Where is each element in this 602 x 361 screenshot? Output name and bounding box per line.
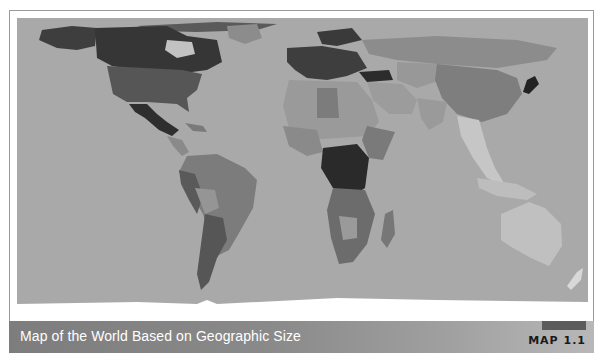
region-new-zealand bbox=[567, 268, 583, 290]
region-madagascar bbox=[381, 210, 395, 248]
region-india bbox=[417, 98, 447, 130]
region-japan bbox=[523, 76, 539, 94]
map-number-tag: MAP 1.1 bbox=[528, 334, 586, 347]
map-caption: Map of the World Based on Geographic Siz… bbox=[20, 328, 301, 344]
region-west-africa bbox=[283, 126, 323, 156]
world-map bbox=[17, 18, 588, 309]
region-southeast-asia bbox=[457, 116, 507, 188]
region-greenland bbox=[227, 24, 262, 44]
world-map-svg bbox=[17, 18, 588, 309]
region-central-america bbox=[167, 136, 189, 156]
map-tag-accent bbox=[542, 321, 586, 330]
region-turkey bbox=[359, 70, 393, 82]
region-usa bbox=[107, 66, 202, 112]
caption-bar: Map of the World Based on Geographic Siz… bbox=[9, 321, 594, 353]
region-china bbox=[435, 64, 522, 122]
region-indonesia bbox=[477, 178, 537, 200]
region-caribbean bbox=[185, 123, 207, 132]
region-antarctica bbox=[17, 298, 588, 309]
region-sahel bbox=[317, 88, 339, 118]
region-alaska bbox=[39, 26, 97, 50]
region-europe bbox=[287, 46, 367, 80]
region-russia bbox=[362, 36, 557, 68]
region-australia bbox=[501, 202, 562, 266]
region-horn-africa bbox=[362, 126, 395, 160]
region-scandinavia bbox=[317, 28, 362, 46]
region-mexico bbox=[129, 104, 179, 136]
